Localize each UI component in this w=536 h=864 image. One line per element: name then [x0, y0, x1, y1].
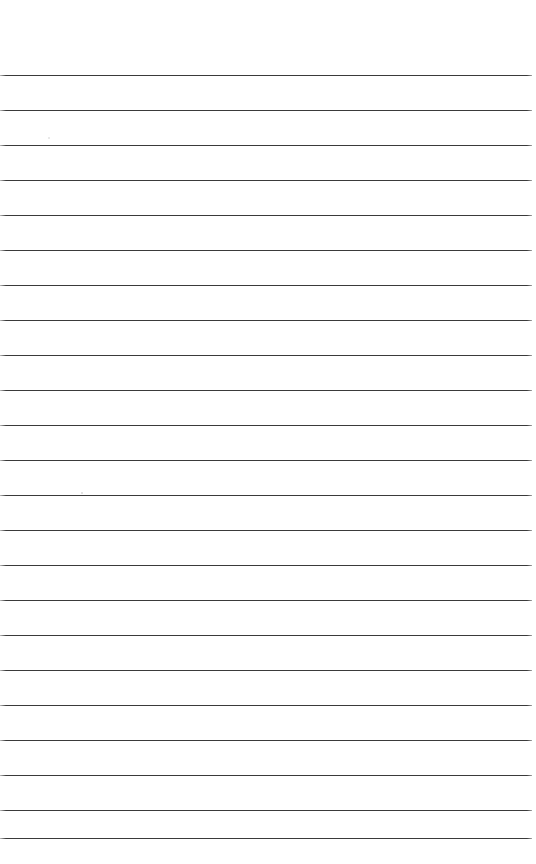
paper-speck	[81, 492, 83, 494]
ruled-line	[0, 355, 532, 356]
ruled-line	[0, 670, 532, 671]
ruled-line	[0, 145, 532, 146]
ruled-line	[0, 390, 532, 391]
ruled-line	[0, 460, 532, 461]
ruled-line	[0, 320, 532, 321]
ruled-line	[0, 635, 532, 636]
paper-speck	[48, 137, 50, 139]
ruled-line	[0, 600, 532, 601]
ruled-line	[0, 110, 532, 111]
ruled-line	[0, 180, 532, 181]
ruled-line	[0, 705, 532, 706]
ruled-line	[0, 530, 532, 531]
ruled-line	[0, 565, 532, 566]
ruled-line	[0, 495, 532, 496]
ruled-line	[0, 810, 532, 811]
ruled-page	[0, 0, 536, 864]
ruled-line	[0, 425, 532, 426]
ruled-line	[0, 285, 532, 286]
ruled-lines-layer	[0, 0, 536, 864]
ruled-line	[0, 775, 532, 776]
ruled-line	[0, 75, 532, 76]
ruled-line	[0, 215, 532, 216]
ruled-line	[0, 740, 532, 741]
ruled-line	[0, 250, 532, 251]
ruled-line	[0, 838, 532, 839]
